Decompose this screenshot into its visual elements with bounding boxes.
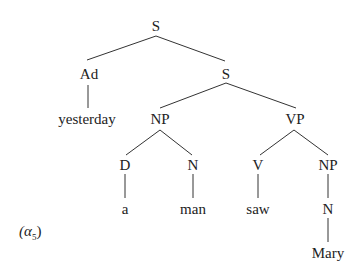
node-n2: N (323, 202, 334, 217)
edge-s2-np1 (160, 83, 226, 108)
label-close-paren: ) (36, 223, 41, 239)
edge-root-ad (87, 36, 156, 60)
node-vp: VP (285, 112, 304, 127)
node-yesterday: yesterday (58, 112, 115, 127)
node-saw: saw (246, 202, 269, 217)
node-np1: NP (150, 112, 169, 127)
node-root-s: S (152, 19, 160, 34)
node-s2: S (222, 67, 230, 82)
edge-vp-v (260, 130, 294, 155)
edge-np1-n1 (160, 130, 192, 155)
edge-root-s2 (156, 36, 225, 61)
node-np2: NP (318, 158, 337, 173)
label-symbol: α (24, 223, 32, 239)
edge-vp-np2 (294, 130, 328, 155)
tree-label: (α5) (19, 223, 41, 242)
node-mary: Mary (312, 246, 345, 261)
node-d: D (120, 158, 131, 173)
edge-s2-vp (226, 83, 296, 108)
node-man: man (180, 202, 206, 217)
node-v: V (253, 158, 264, 173)
node-ad: Ad (80, 67, 98, 82)
node-n1: N (188, 158, 199, 173)
node-a: a (122, 202, 129, 217)
edge-np1-d (126, 130, 160, 155)
tree-edges (0, 0, 360, 272)
